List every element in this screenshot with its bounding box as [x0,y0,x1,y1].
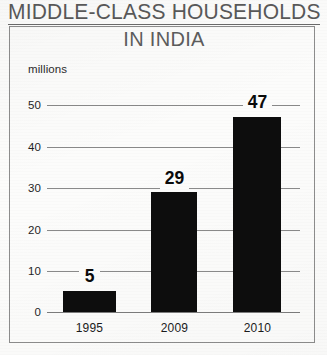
y-tick-label-10: 10 [14,265,41,277]
plot-area: millions 0 10 20 30 40 50 5 29 47 1995 2… [0,0,327,355]
y-axis-units-label: millions [28,63,67,75]
y-tick-label-40: 40 [14,141,41,153]
bar-2010 [233,117,281,312]
gridline-0 [47,312,300,313]
y-tick-label-0: 0 [14,306,41,318]
y-tick-label-50: 50 [14,99,41,111]
bar-value-1995: 5 [69,266,110,287]
title-underline-rule [8,24,320,25]
bar-2009 [151,192,197,312]
x-tick-label-2010: 2010 [227,321,288,335]
bar-value-2010: 47 [237,92,278,113]
x-tick-label-2009: 2009 [144,321,205,335]
bar-value-2009: 29 [154,168,195,189]
y-tick-label-20: 20 [14,224,41,236]
page-title-line-1: MIDDLE-CLASS HOUSEHOLDS [8,0,320,24]
page-title-line-2: IN INDIA [8,27,320,51]
chart-page: MIDDLE-CLASS HOUSEHOLDS IN INDIA million… [0,0,327,355]
bar-1995 [63,291,116,312]
y-tick-label-30: 30 [14,182,41,194]
x-tick-label-1995: 1995 [59,321,120,335]
